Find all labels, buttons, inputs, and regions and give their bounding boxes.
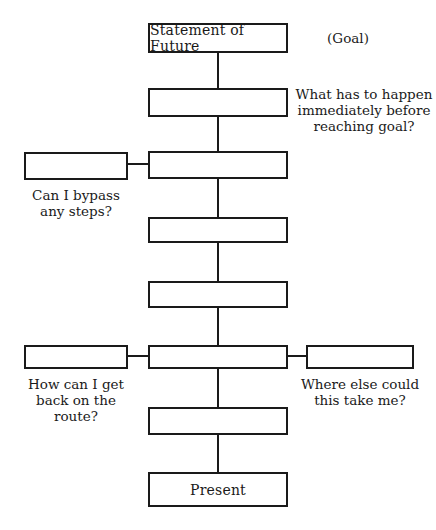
- step-box-1: [148, 88, 288, 117]
- connector-step5-step6: [217, 368, 219, 408]
- step-box-6: [148, 407, 288, 435]
- where-else-box: [306, 345, 414, 369]
- step-box-2: [148, 151, 288, 179]
- where-else-question: Where else could this take me?: [300, 376, 420, 408]
- connector-step1-step2: [217, 116, 219, 152]
- bypass-box: [24, 152, 128, 180]
- back-on-route-box: [24, 345, 128, 369]
- connector-step4-step5: [217, 307, 219, 346]
- connector-where-else: [286, 355, 307, 357]
- bypass-question: Can I bypass any steps?: [18, 187, 134, 219]
- connector-step3-step4: [217, 242, 219, 282]
- step-box-3: [148, 217, 288, 243]
- connector-step2-step3: [217, 178, 219, 218]
- before-goal-question: What has to happen immediately before re…: [292, 86, 436, 134]
- step-box-5: [148, 345, 288, 369]
- back-on-route-question: How can I get back on the route?: [18, 376, 134, 424]
- present-box: Present: [148, 472, 288, 507]
- step-box-4: [148, 281, 288, 308]
- connector-bypass: [127, 163, 149, 165]
- connector-goal-step1: [217, 52, 219, 89]
- goal-box: Statement of Future: [148, 23, 288, 53]
- goal-tag-label: (Goal): [318, 30, 378, 46]
- connector-back-on-route: [127, 355, 149, 357]
- connector-step6-present: [217, 434, 219, 473]
